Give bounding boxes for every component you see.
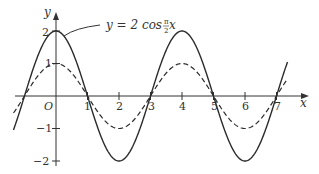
x-tick-label-2: 2 <box>116 100 123 113</box>
y-tick-label-1: 1 <box>45 57 52 70</box>
y-axis-arrow-icon <box>53 12 59 20</box>
annotation-fraction-den: 2 <box>164 27 168 35</box>
x-tick-label-4: 4 <box>179 100 186 113</box>
x-tick-label-1: 1 <box>84 100 91 113</box>
y-axis-label: y <box>43 5 51 19</box>
x-tick-label-5: 5 <box>211 100 218 113</box>
x-axis-label: x <box>300 96 307 110</box>
axes <box>15 12 309 166</box>
annotation-x: x <box>169 18 176 32</box>
x-tick-label-7: 7 <box>274 100 281 113</box>
y-tick-label-minus2: −2 <box>33 155 49 168</box>
x-tick-label-6: 6 <box>242 100 249 113</box>
chart-canvas: y x O 2 1 −1 −2 1 2 3 4 5 6 7 y = 2 cos … <box>0 0 319 174</box>
y-tick-label-2: 2 <box>42 26 49 39</box>
y-tick-label-minus1: −1 <box>36 122 52 135</box>
origin-label: O <box>44 100 53 113</box>
annotation-leader-line <box>64 25 100 36</box>
curve-annotation: y = 2 cos <box>105 18 162 32</box>
x-tick-label-3: 3 <box>148 100 155 113</box>
